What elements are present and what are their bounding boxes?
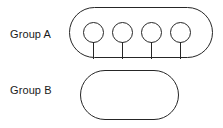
diagram-canvas: Group A Group B (0, 0, 223, 128)
lollipop-head-icon (83, 22, 104, 43)
lollipop-head-icon (141, 22, 162, 43)
group-a-container (69, 7, 213, 58)
lollipop-head-icon (170, 22, 191, 43)
lollipop-stem-icon (122, 42, 123, 59)
group-b-label: Group B (10, 84, 52, 96)
lollipop-stem-icon (151, 42, 152, 59)
lollipop-stem-icon (93, 42, 94, 59)
lollipop-stem-icon (180, 42, 181, 59)
group-b-container (80, 70, 179, 120)
group-a-label: Group A (10, 28, 51, 40)
lollipop-head-icon (112, 22, 133, 43)
